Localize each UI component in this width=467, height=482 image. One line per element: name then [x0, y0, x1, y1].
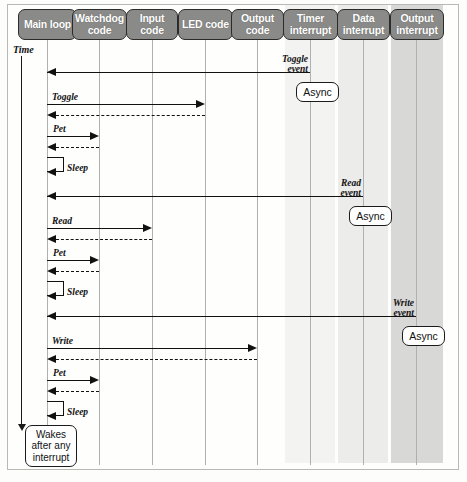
- arrowhead-pet-return-3: [47, 387, 56, 395]
- arrowhead-toggle-event: [47, 68, 56, 76]
- wakes-after-interrupt-note[interactable]: Wakes after any interrupt: [25, 425, 77, 467]
- arrowhead-write-call: [248, 344, 257, 352]
- message-label-pet-1: Pet: [53, 124, 66, 134]
- lifeline-data-interrupt: [363, 40, 364, 465]
- message-label-sleep-3: Sleep: [67, 407, 88, 417]
- arrowhead-pet-call-3: [90, 376, 99, 384]
- actor-led-code[interactable]: LED code: [178, 9, 233, 40]
- message-label-read-event-line2: event: [321, 188, 361, 198]
- arrowhead-sleep-3: [47, 412, 56, 420]
- arrowhead-read-event: [47, 192, 56, 200]
- message-label-read: Read: [52, 216, 72, 226]
- actor-data-interrupt[interactable]: Data interrupt: [337, 9, 390, 40]
- message-label-write-event-line2: event: [374, 308, 414, 318]
- lifeline-led-code: [205, 40, 206, 465]
- message-line-read-return: [56, 239, 152, 240]
- time-axis-label: Time: [13, 44, 34, 55]
- async-note-output[interactable]: Async: [402, 326, 445, 346]
- actor-output-code[interactable]: Output code: [231, 9, 284, 40]
- message-line-pet-call-3: [47, 380, 90, 381]
- arrowhead-pet-call-2: [90, 256, 99, 264]
- message-line-pet-return-2: [56, 271, 99, 272]
- message-line-write-call: [47, 348, 248, 349]
- message-label-read-event-line1: Read: [321, 178, 361, 188]
- actor-timer-interrupt[interactable]: Timer interrupt: [283, 9, 338, 40]
- actor-output-interrupt[interactable]: Output interrupt: [390, 9, 444, 40]
- band-output-interrupt: [391, 5, 443, 463]
- message-line-pet-return-3: [56, 391, 99, 392]
- async-note-data[interactable]: Async: [349, 206, 392, 226]
- message-line-toggle-return: [56, 115, 205, 116]
- arrowhead-pet-call-1: [90, 132, 99, 140]
- async-note-timer[interactable]: Async: [296, 82, 339, 102]
- message-label-pet-2: Pet: [53, 248, 66, 258]
- message-label-sleep-1: Sleep: [67, 163, 88, 173]
- message-label-toggle-event-line1: Toggle: [268, 54, 308, 64]
- message-line-read-call: [47, 228, 143, 229]
- message-label-write: Write: [52, 336, 73, 346]
- arrowhead-pet-return-1: [47, 143, 56, 151]
- lifeline-output-interrupt: [416, 40, 417, 465]
- wakes-note-line1: Wakes: [36, 429, 66, 441]
- message-label-sleep-2: Sleep: [67, 287, 88, 297]
- arrowhead-toggle-call: [196, 100, 205, 108]
- message-label-toggle: Toggle: [52, 92, 78, 102]
- message-line-write-return: [56, 359, 257, 360]
- arrowhead-pet-return-2: [47, 267, 56, 275]
- wakes-note-line2: after any: [32, 440, 71, 452]
- arrowhead-read-return: [47, 235, 56, 243]
- message-line-pet-call-1: [47, 136, 90, 137]
- message-label-pet-3: Pet: [53, 368, 66, 378]
- lifeline-timer-interrupt: [310, 40, 311, 465]
- arrowhead-write-event: [47, 312, 56, 320]
- arrowhead-sleep-1: [47, 168, 56, 176]
- actor-main-loop[interactable]: Main loop: [18, 9, 77, 40]
- message-label-toggle-event-line2: event: [268, 64, 308, 74]
- wakes-note-line3: interrupt: [33, 452, 70, 464]
- arrowhead-read-call: [143, 224, 152, 232]
- lifeline-output-code: [257, 40, 258, 465]
- message-line-toggle-call: [47, 104, 196, 105]
- arrowhead-write-return: [47, 355, 56, 363]
- actor-watchdog-code[interactable]: Watchdog code: [72, 9, 127, 40]
- arrowhead-sleep-2: [47, 292, 56, 300]
- sequence-diagram-page: Main loop Watchdog code Input code LED c…: [0, 0, 467, 482]
- message-line-read-event: [47, 196, 363, 197]
- time-axis-line: [21, 56, 22, 426]
- actor-input-code[interactable]: Input code: [126, 9, 178, 40]
- message-line-pet-return-1: [56, 147, 99, 148]
- arrowhead-toggle-return: [47, 111, 56, 119]
- message-line-pet-call-2: [47, 260, 90, 261]
- message-label-write-event-line1: Write: [374, 298, 414, 308]
- message-line-write-event: [47, 316, 416, 317]
